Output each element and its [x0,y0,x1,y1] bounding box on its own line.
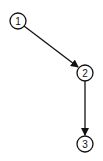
node-3: 3 [77,136,93,152]
edge-1-to-2 [24,26,78,67]
node-3-label: 3 [82,139,88,150]
node-2: 2 [77,65,93,81]
graph-canvas: 1 2 3 [0,0,103,161]
node-1-label: 1 [15,16,21,27]
node-2-label: 2 [82,68,88,79]
node-1: 1 [10,13,26,29]
